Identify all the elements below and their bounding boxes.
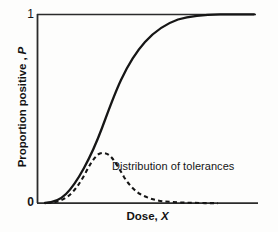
y-axis-title-symbol: P (16, 47, 28, 55)
figure-container: 1 0 Proportion positive , P Dose, X Dist… (0, 0, 278, 232)
x-axis-title-text: Dose, (126, 210, 161, 222)
y-axis-tick-label-top: 1 (20, 7, 34, 21)
curve-proportion-positive (45, 14, 254, 203)
plot-canvas (0, 0, 278, 232)
x-axis-title-symbol: X (161, 210, 169, 222)
distribution-of-tolerances-annotation: Distribution of tolerances (112, 160, 234, 172)
x-axis-title: Dose, X (37, 210, 258, 222)
y-axis-title-text: Proportion positive , (16, 54, 28, 167)
y-axis-title: Proportion positive , P (16, 22, 28, 192)
y-axis-tick-label-bottom: 0 (18, 195, 34, 209)
